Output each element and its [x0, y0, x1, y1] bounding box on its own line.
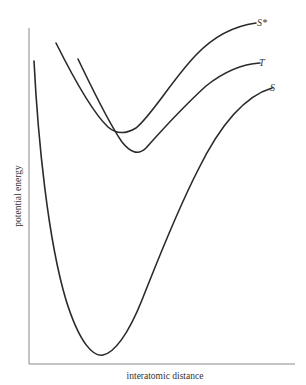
curve-t — [78, 59, 260, 152]
label-s-star: S* — [257, 17, 267, 28]
curve-s-star — [56, 23, 256, 132]
label-s: S — [270, 82, 275, 93]
x-axis-label: interatomic distance — [127, 371, 204, 381]
y-axis-label: potential energy — [13, 165, 23, 227]
curve-s — [34, 61, 272, 355]
label-t: T — [259, 57, 266, 68]
potential-energy-diagram: S* T S interatomic distance potential en… — [0, 0, 306, 385]
diagram-canvas: S* T S interatomic distance potential en… — [0, 0, 306, 385]
